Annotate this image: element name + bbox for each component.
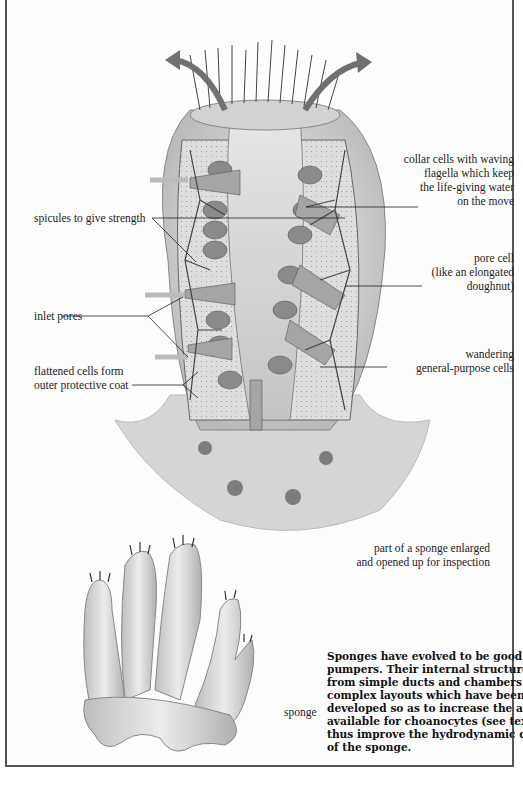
arrowhead-right-icon bbox=[356, 52, 372, 73]
label-line: inlet pores bbox=[34, 309, 82, 323]
label-wandering-cells: wandering general-purpose cells bbox=[370, 347, 514, 375]
label-line: (like an elongated bbox=[370, 265, 514, 279]
label-line: wandering bbox=[370, 347, 514, 361]
label-line: outer protective coat bbox=[34, 378, 129, 392]
label-line: flattened cells form bbox=[34, 364, 129, 378]
label-flattened-cells: flattened cells form outer protective co… bbox=[34, 364, 129, 392]
caption-line: complex layouts which have been bbox=[327, 689, 517, 702]
label-line: and opened up for inspection bbox=[330, 555, 490, 569]
label-line: flagella which keep bbox=[370, 166, 514, 180]
caption-line: from simple ducts and chambers to bbox=[327, 676, 517, 689]
label-collar-cells: collar cells with waving flagella which … bbox=[370, 152, 514, 208]
arrowhead-left-icon bbox=[165, 50, 180, 70]
sponge-body-cutaway bbox=[162, 100, 385, 430]
caption-line: Sponges have evolved to be good bbox=[327, 650, 517, 663]
label-line: part of a sponge enlarged bbox=[330, 541, 490, 555]
figure-caption: Sponges have evolved to be good pumpers.… bbox=[327, 650, 517, 754]
label-line: doughnut) bbox=[370, 279, 514, 293]
label-sponge: sponge bbox=[284, 705, 317, 719]
label-line: sponge bbox=[284, 705, 317, 719]
caption-line: developed so as to increase the area bbox=[327, 702, 517, 715]
caption-line: pumpers. Their internal structures range bbox=[327, 663, 517, 676]
caption-line: available for choanocytes (see text) and bbox=[327, 715, 517, 728]
outflow-arrow-right bbox=[305, 63, 360, 110]
label-line: on the move bbox=[370, 194, 514, 208]
label-spicules: spicules to give strength bbox=[34, 211, 145, 225]
label-line: general-purpose cells bbox=[370, 361, 514, 375]
label-line: the life-giving water bbox=[370, 180, 514, 194]
label-line: spicules to give strength bbox=[34, 211, 145, 225]
label-line: collar cells with waving bbox=[370, 152, 514, 166]
outflow-arrow-left bbox=[175, 60, 225, 110]
caption-line: thus improve the hydrodynamic qualities bbox=[327, 728, 517, 741]
caption-line: of the sponge. bbox=[327, 741, 517, 754]
label-inlet-pores: inlet pores bbox=[34, 309, 82, 323]
label-pore-cell: pore cell (like an elongated doughnut) bbox=[370, 251, 514, 293]
label-enlarged-caption: part of a sponge enlarged and opened up … bbox=[330, 541, 490, 569]
label-line: pore cell bbox=[370, 251, 514, 265]
